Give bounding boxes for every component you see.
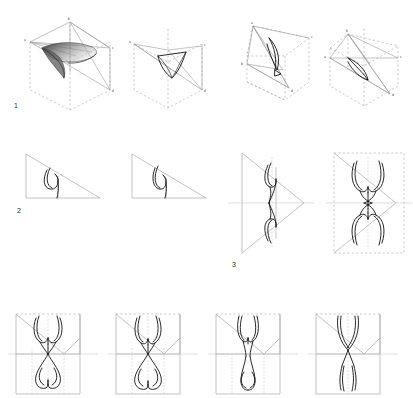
row-label-1: 1 bbox=[14, 102, 18, 109]
vertex-label-a: a bbox=[129, 40, 131, 44]
row3-panel-1 bbox=[228, 145, 316, 263]
vertex-label-c: c bbox=[311, 35, 313, 39]
row-label-2: 2 bbox=[17, 207, 21, 214]
row4-panel-2 bbox=[108, 308, 200, 398]
vertex-label-c: c bbox=[204, 43, 206, 47]
vertex-label-c: c bbox=[400, 55, 402, 59]
row4-panel-3 bbox=[208, 308, 300, 398]
vertex-label-d: d bbox=[392, 93, 394, 97]
vertex-label-a: a bbox=[24, 38, 26, 42]
vertex-label-d: d bbox=[204, 89, 206, 93]
vertex-label-d: d bbox=[291, 89, 293, 93]
row1-panel-4: b a c d bbox=[318, 18, 410, 114]
row2-panel-2 bbox=[128, 148, 212, 208]
vertex-label-a: a bbox=[324, 55, 326, 59]
vertex-label-b: b bbox=[68, 17, 70, 21]
row-label-3: 3 bbox=[232, 261, 236, 268]
vertex-label-c: c bbox=[112, 46, 114, 50]
row1-panel-3: a c b d bbox=[225, 12, 320, 112]
vertex-label-b: b bbox=[241, 62, 243, 66]
row2-panel-1 bbox=[22, 148, 106, 208]
row1-panel-1: b a c d bbox=[12, 12, 127, 112]
row1-panel-2: a c d bbox=[120, 22, 215, 114]
vertex-label-a: a bbox=[251, 21, 253, 25]
vertex-label-b: b bbox=[346, 29, 348, 33]
vertex-label-d: d bbox=[112, 89, 114, 93]
row3-panel-2 bbox=[326, 145, 413, 263]
row4-panel-1 bbox=[8, 308, 100, 398]
row4-panel-4 bbox=[308, 308, 400, 398]
